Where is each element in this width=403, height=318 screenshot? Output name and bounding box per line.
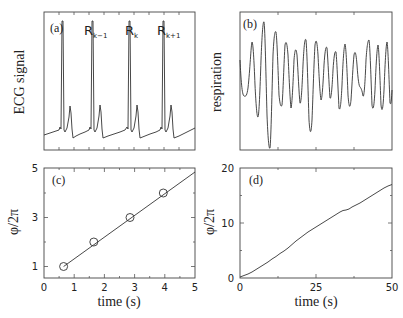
d-xtick: 50 [386, 282, 399, 293]
d-ytick: 10 [221, 218, 234, 229]
phase-fit-line [64, 172, 195, 267]
panel-c-xlabel: time (s) [97, 294, 140, 310]
svg-text:R: R [157, 23, 166, 38]
panel-b-ylabel: respiration [209, 52, 224, 112]
figure: (a) R k−1 R k R k+1 ECG signal (b) respi… [0, 0, 403, 318]
panel-a-ylabel: ECG signal [12, 49, 27, 114]
c-xtick: 3 [131, 282, 137, 293]
panel-c-ylabel: φ/2π [6, 209, 21, 235]
r-peak-label-k+1: R k+1 [157, 23, 180, 40]
panel-a-label: (a) [50, 21, 63, 35]
c-xtick: 2 [101, 282, 107, 293]
data-point [126, 214, 134, 222]
panel-d-phase: (d) 20 10 0 0 25 50 time (s) φ/2π [202, 163, 398, 310]
panel-c-phase: (c) 5 3 1 0 1 2 3 4 5 time (s) φ/2π [6, 163, 198, 310]
panel-d-ylabel: φ/2π [202, 209, 217, 235]
panel-d-xlabel: time (s) [294, 294, 337, 310]
panel-a-ecg: (a) R k−1 R k R k+1 ECG signal [12, 12, 195, 150]
c-xtick: 1 [71, 282, 77, 293]
r-peak-label-k-1: R k−1 [84, 23, 107, 40]
panel-d-label: (d) [249, 173, 263, 187]
d-ytick: 0 [228, 273, 234, 284]
svg-text:k: k [134, 32, 139, 40]
panel-b-label: (b) [243, 17, 257, 31]
phase-trace [240, 185, 392, 278]
c-xtick: 5 [192, 282, 198, 293]
panel-c-frame [44, 168, 195, 278]
panel-c-ticks [44, 168, 195, 278]
c-xtick: 4 [162, 282, 168, 293]
svg-text:R: R [125, 23, 134, 38]
r-peak-label-k: R k [125, 23, 139, 40]
svg-text:k−1: k−1 [93, 32, 107, 40]
c-ytick: 5 [32, 163, 38, 174]
d-xtick: 0 [237, 282, 243, 293]
respiration-trace [240, 22, 392, 148]
c-ytick: 3 [32, 212, 38, 223]
d-xtick: 25 [310, 282, 323, 293]
panel-b-respiration: (b) respiration [209, 12, 392, 150]
d-ytick: 20 [221, 163, 234, 174]
panel-c-label: (c) [52, 173, 65, 187]
svg-text:k+1: k+1 [166, 32, 180, 40]
svg-text:R: R [84, 23, 93, 38]
c-ytick: 1 [32, 261, 38, 272]
c-xtick: 0 [41, 282, 47, 293]
